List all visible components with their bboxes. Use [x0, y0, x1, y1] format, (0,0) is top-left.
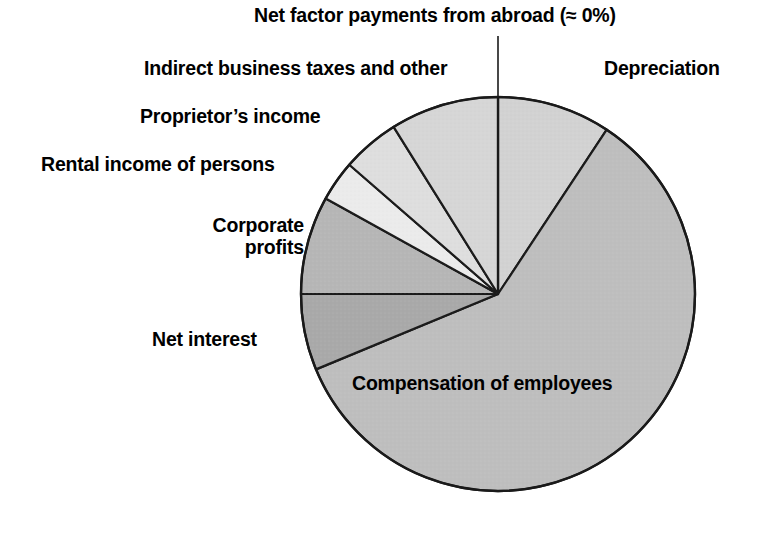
label-corporate-profits: Corporate profits [176, 215, 304, 259]
label-rental-income-of-persons: Rental income of persons [41, 154, 275, 176]
label-compensation-of-employees: Compensation of employees [352, 373, 612, 395]
label-depreciation: Depreciation [604, 58, 720, 80]
label-net-interest: Net interest [152, 329, 257, 351]
label-net-factor-payments: Net factor payments from abroad (≈ 0%) [254, 5, 616, 27]
pie-chart-graphic [0, 0, 763, 534]
pie-chart-figure: Net factor payments from abroad (≈ 0%) I… [0, 0, 763, 534]
label-proprietors-income: Proprietor’s income [140, 106, 320, 128]
pie-texture-overlay [301, 97, 695, 491]
label-indirect-business-taxes: Indirect business taxes and other [144, 58, 447, 80]
